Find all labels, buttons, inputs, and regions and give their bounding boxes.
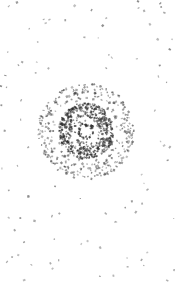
particle-mark bbox=[13, 229, 16, 232]
particle-mark bbox=[0, 85, 2, 87]
particle-mark bbox=[45, 126, 48, 128]
particle-mark bbox=[40, 130, 41, 132]
particle-mark bbox=[41, 120, 43, 122]
particle-mark bbox=[82, 175, 85, 177]
particle-mark bbox=[106, 92, 108, 94]
particle-mark bbox=[99, 246, 102, 249]
particle-mark bbox=[168, 146, 171, 149]
particle-mark bbox=[75, 89, 78, 92]
particle-mark bbox=[17, 64, 19, 66]
particle-mark bbox=[121, 160, 122, 162]
particle-mark bbox=[65, 133, 67, 135]
particle-mark bbox=[57, 169, 59, 171]
particle-mark bbox=[118, 142, 120, 144]
particle-mark bbox=[98, 37, 99, 38]
particle-mark bbox=[101, 94, 103, 96]
particle-mark bbox=[61, 144, 63, 146]
particle-mark bbox=[110, 170, 113, 172]
particle-mark bbox=[68, 146, 70, 149]
particle-mark bbox=[115, 165, 118, 167]
particle-mark bbox=[119, 129, 121, 131]
particle-mark bbox=[80, 198, 81, 199]
particle-mark bbox=[58, 142, 61, 145]
particle-mark bbox=[43, 18, 45, 20]
particle-mark bbox=[65, 143, 67, 145]
particle-mark bbox=[127, 129, 129, 131]
particle-mark bbox=[78, 84, 80, 86]
particle-mark bbox=[124, 207, 126, 209]
particle-mark bbox=[91, 163, 93, 166]
particle-mark bbox=[17, 254, 20, 257]
particle-mark bbox=[71, 164, 73, 166]
particle-mark bbox=[37, 41, 39, 43]
particle-mark bbox=[122, 123, 124, 125]
particle-mark bbox=[74, 163, 76, 165]
particle-mark bbox=[84, 113, 86, 115]
particle-mark bbox=[100, 175, 102, 177]
particle-mark bbox=[83, 84, 86, 86]
particle-mark bbox=[30, 264, 32, 266]
particle-mark bbox=[110, 132, 112, 133]
particle-mark bbox=[96, 86, 98, 88]
particle-mark bbox=[98, 131, 101, 133]
particle-mark bbox=[123, 117, 126, 120]
particle-mark bbox=[91, 172, 93, 174]
particle-mark bbox=[136, 58, 138, 59]
particle-mark bbox=[41, 130, 44, 133]
particle-mark bbox=[116, 140, 118, 142]
particle-mark bbox=[100, 99, 103, 101]
particle-mark bbox=[105, 17, 107, 19]
particle-mark bbox=[79, 134, 80, 135]
particle-mark bbox=[80, 243, 82, 245]
particle-mark bbox=[101, 88, 103, 91]
particle-mark bbox=[56, 103, 58, 105]
particle-mark bbox=[77, 174, 79, 177]
particle-mark bbox=[141, 203, 143, 205]
particle-mark bbox=[73, 174, 75, 176]
particle-mark bbox=[63, 141, 65, 143]
particle-mark bbox=[80, 157, 83, 160]
particle-mark bbox=[122, 145, 124, 147]
particle-mark bbox=[43, 142, 46, 145]
particle-mark bbox=[168, 48, 171, 51]
particle-mark bbox=[74, 125, 77, 127]
particle-mark bbox=[106, 100, 108, 102]
particle-mark bbox=[19, 217, 21, 219]
particle-mark bbox=[70, 115, 71, 117]
particle-mark bbox=[122, 112, 124, 114]
particle-mark bbox=[44, 22, 47, 24]
particle-mark bbox=[23, 279, 26, 282]
particle-mark bbox=[102, 116, 104, 118]
particle-mark bbox=[51, 147, 53, 150]
particle-mark bbox=[104, 212, 107, 215]
particle-mark bbox=[58, 96, 61, 99]
particle-mark bbox=[53, 148, 55, 150]
particle-mark bbox=[73, 155, 74, 157]
particle-mark bbox=[99, 89, 101, 91]
particle-mark bbox=[140, 173, 142, 175]
particle-mark bbox=[105, 167, 107, 169]
particle-mark bbox=[54, 124, 56, 125]
particle-mark bbox=[67, 166, 70, 169]
particle-mark bbox=[140, 258, 143, 261]
particle-mark bbox=[81, 162, 84, 165]
particle-mark bbox=[68, 95, 71, 98]
particle-mark bbox=[113, 101, 116, 104]
particle-mark bbox=[113, 169, 115, 172]
particle-mark bbox=[160, 140, 162, 142]
particle-mark bbox=[39, 118, 41, 119]
particle-mark bbox=[28, 28, 30, 30]
particle-mark bbox=[158, 75, 160, 78]
particle-mark bbox=[123, 126, 126, 129]
particle-mark bbox=[130, 134, 133, 136]
particle-mark bbox=[82, 104, 85, 107]
particle-mark bbox=[87, 176, 89, 178]
particle-mark bbox=[99, 276, 101, 278]
particle-mark bbox=[51, 267, 54, 270]
particle-mark bbox=[108, 54, 110, 56]
particle-mark bbox=[99, 119, 101, 121]
particle-mark bbox=[11, 256, 13, 258]
particle-mark bbox=[89, 148, 91, 149]
particle-mark bbox=[121, 128, 123, 130]
particle-mark bbox=[65, 131, 67, 133]
